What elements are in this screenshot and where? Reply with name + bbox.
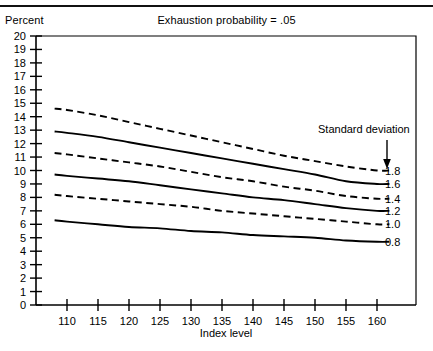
x-tick-label: 135	[213, 315, 231, 327]
series-label-sd-1-0: 1.0	[385, 218, 400, 230]
y-axis-ticks: 01234567891011121314151617181920	[14, 30, 42, 311]
y-tick-label: 8	[20, 191, 26, 203]
y-tick-label: 7	[20, 205, 26, 217]
x-tick-label: 115	[89, 315, 107, 327]
x-tick-label: 155	[337, 315, 355, 327]
x-tick-label: 110	[58, 315, 76, 327]
y-tick-label: 11	[15, 151, 26, 163]
data-curve-sd-1-8	[55, 109, 390, 171]
y-tick-label: 19	[14, 43, 26, 55]
y-tick-label: 12	[14, 138, 26, 150]
y-tick-label: 5	[20, 232, 26, 244]
y-tick-label: 0	[20, 299, 26, 311]
data-curve-sd-1-6	[55, 132, 390, 185]
y-tick-label: 4	[20, 245, 26, 257]
y-tick-label: 1	[20, 286, 26, 298]
data-curve-sd-0-8	[55, 220, 390, 242]
x-tick-label: 150	[306, 315, 324, 327]
series-label-sd-1-6: 1.6	[385, 178, 400, 190]
legend-annotation-group: Standard deviation	[318, 123, 410, 169]
y-tick-label: 14	[14, 111, 26, 123]
x-tick-label: 120	[120, 315, 138, 327]
y-tick-label: 10	[14, 165, 26, 177]
y-tick-label: 18	[14, 57, 26, 69]
figure-container: Percent Exhaustion probability = .05 012…	[0, 0, 433, 351]
series-label-sd-1-2: 1.2	[385, 205, 400, 217]
y-tick-label: 6	[20, 218, 26, 230]
y-tick-label: 15	[14, 97, 26, 109]
data-curve-sd-1-4	[55, 153, 390, 199]
series-label-sd-0-8: 0.8	[385, 236, 400, 248]
x-axis-title: Index level	[36, 327, 416, 339]
y-tick-label: 2	[20, 272, 26, 284]
y-tick-label: 3	[20, 259, 26, 271]
x-tick-label: 140	[244, 315, 262, 327]
y-tick-label: 17	[14, 70, 26, 82]
data-curve-sd-1-0	[55, 195, 390, 225]
x-tick-label: 145	[275, 315, 293, 327]
plot-frame	[36, 36, 416, 305]
x-axis-ticks: 110115120125130135140145150155160	[58, 299, 386, 327]
line-chart-plot: 01234567891011121314151617181920 1101151…	[0, 0, 433, 351]
series-labels-group: 1.81.61.41.21.00.8	[385, 165, 400, 248]
x-tick-label: 125	[151, 315, 169, 327]
y-tick-label: 13	[14, 124, 26, 136]
series-label-sd-1-4: 1.4	[385, 193, 400, 205]
legend-title: Standard deviation	[318, 123, 410, 135]
y-tick-label: 9	[20, 178, 26, 190]
x-tick-label: 130	[182, 315, 200, 327]
x-tick-label: 160	[368, 315, 386, 327]
y-tick-label: 16	[14, 84, 26, 96]
y-tick-label: 20	[14, 30, 26, 42]
